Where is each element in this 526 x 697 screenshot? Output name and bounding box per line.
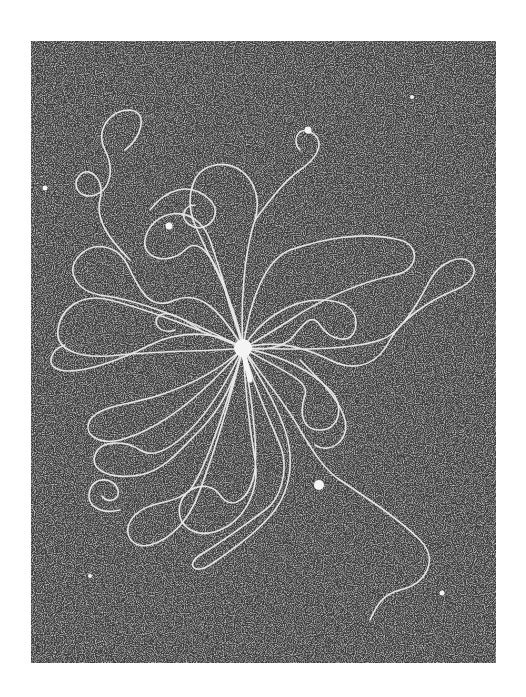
white-particle-dot <box>410 95 414 99</box>
white-particle-dot <box>88 574 92 578</box>
white-particle-dot <box>440 591 445 596</box>
phage-head <box>234 339 252 357</box>
white-particle-dot <box>43 186 48 191</box>
white-particle-dot <box>166 223 173 230</box>
micrograph-plate <box>31 41 496 663</box>
white-particle-dot <box>305 127 312 134</box>
white-particle-dot <box>314 480 324 490</box>
micrograph-figure <box>0 0 526 697</box>
